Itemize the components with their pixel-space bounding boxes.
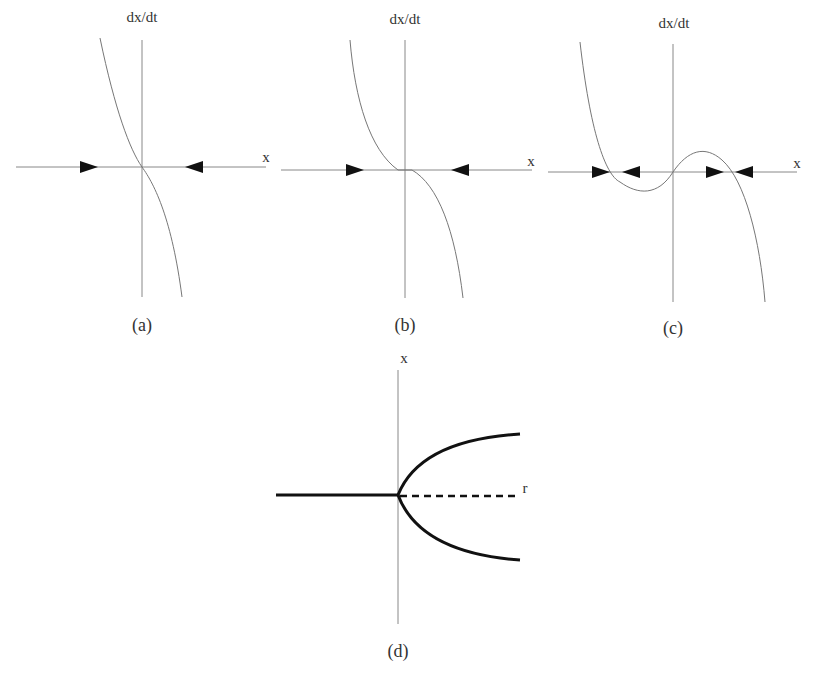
stable-branch-upper [398, 434, 520, 495]
arrow-left-icon [451, 164, 469, 176]
figure-canvas: dx/dt x (a) dx/dt x (b) dx/dt x (c) x r … [0, 0, 813, 677]
y-axis-label: dx/dt [127, 9, 159, 25]
x-axis-label: x [262, 149, 270, 165]
y-axis-label: dx/dt [659, 15, 691, 31]
panel-a: dx/dt x (a) [16, 9, 270, 336]
flow-curve [350, 40, 463, 298]
arrow-right-icon [346, 164, 364, 176]
x-axis-label: x [793, 155, 801, 171]
caption-d: (d) [388, 641, 409, 662]
arrow-right-icon [80, 161, 98, 173]
arrow-left-icon [622, 166, 640, 178]
vertical-axis-label: x [400, 350, 408, 366]
stable-branch-lower [398, 495, 520, 560]
arrow-right-icon [706, 166, 724, 178]
panel-c: dx/dt x (c) [548, 15, 801, 339]
caption-b: (b) [395, 315, 416, 336]
horizontal-axis-label: r [523, 480, 528, 496]
arrow-left-icon [185, 161, 203, 173]
panel-d: x r (d) [276, 350, 528, 662]
caption-c: (c) [663, 318, 683, 339]
panel-b: dx/dt x (b) [281, 11, 535, 336]
arrow-left-icon [735, 166, 753, 178]
x-axis-label: x [527, 153, 535, 169]
caption-a: (a) [132, 315, 152, 336]
y-axis-label: dx/dt [390, 11, 422, 27]
